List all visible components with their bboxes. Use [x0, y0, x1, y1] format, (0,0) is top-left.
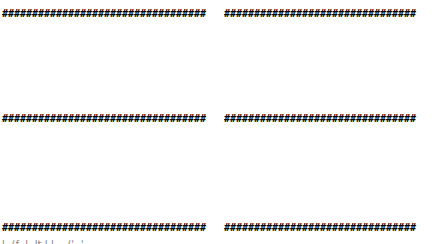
clipped-footer-text: l- (f- l- lt l-l -- ('- '	[2, 238, 432, 244]
glyph-row-1: ################################## #####…	[0, 7, 434, 21]
glyph-block-right: ################################	[224, 221, 420, 235]
glyph-row-2: ################################## #####…	[0, 112, 434, 126]
glyph-block-right: ################################	[224, 112, 420, 126]
glyph-block-right: ################################	[224, 7, 420, 21]
glyph-block-left: ##################################	[2, 112, 210, 126]
glyph-row-3: ################################## #####…	[0, 221, 434, 235]
glyph-block-left: ##################################	[2, 221, 210, 235]
glyph-block-left: ##################################	[2, 7, 210, 21]
